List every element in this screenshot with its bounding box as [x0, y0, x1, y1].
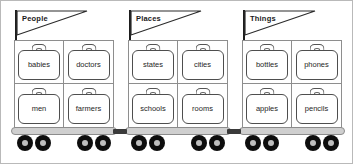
- cart-body-things: bottles phones: [242, 40, 342, 128]
- cart-cell: farmers: [64, 84, 113, 127]
- cart-coupler: [113, 129, 127, 134]
- suitcase-icon: pencils: [296, 88, 338, 124]
- suitcase-icon: doctors: [68, 44, 110, 80]
- cart-places: Places states cities: [123, 1, 235, 164]
- suitcase-body: schools: [132, 94, 174, 124]
- suitcase-label: schools: [140, 105, 165, 113]
- suitcase-body: farmers: [68, 94, 110, 124]
- luggage-carts-scene: People babies doctors: [1, 1, 353, 164]
- flag-label: People: [22, 14, 48, 23]
- cart-coupler: [227, 129, 241, 134]
- pennant-flag-places: Places: [129, 10, 203, 42]
- cart-cell: babies: [15, 41, 64, 84]
- suitcase-label: babies: [28, 61, 50, 69]
- cart-wheel-icon: [305, 135, 321, 151]
- cart-body-places: states cities: [128, 40, 228, 128]
- suitcase-icon: bottles: [246, 44, 288, 80]
- cart-wheel-icon: [323, 135, 339, 151]
- flag-label: Places: [136, 14, 161, 23]
- cart-body-people: babies doctors: [14, 40, 114, 128]
- suitcase-icon: farmers: [68, 88, 110, 124]
- suitcase-icon: states: [132, 44, 174, 80]
- cart-cell: bottles: [243, 41, 292, 84]
- suitcase-icon: schools: [132, 88, 174, 124]
- suitcase-body: bottles: [246, 50, 288, 80]
- cart-people: People babies doctors: [9, 1, 121, 164]
- pennant-flag-people: People: [15, 10, 89, 42]
- suitcase-label: rooms: [192, 105, 213, 113]
- pennant-flag-things: Things: [243, 10, 317, 42]
- suitcase-label: apples: [256, 105, 278, 113]
- suitcase-label: cities: [194, 61, 211, 69]
- cart-wheel-icon: [149, 135, 165, 151]
- cart-cell: apples: [243, 84, 292, 127]
- cart-cell: doctors: [64, 41, 113, 84]
- suitcase-body: apples: [246, 94, 288, 124]
- suitcase-label: farmers: [76, 105, 101, 113]
- flag-label: Things: [250, 14, 276, 23]
- cart-platform: [125, 127, 231, 135]
- suitcase-body: rooms: [182, 94, 224, 124]
- cart-cell: states: [129, 41, 178, 84]
- cart-wheel-icon: [35, 135, 51, 151]
- suitcase-icon: phones: [296, 44, 338, 80]
- cart-wheel-icon: [191, 135, 207, 151]
- suitcase-label: phones: [304, 61, 329, 69]
- suitcase-body: babies: [18, 50, 60, 80]
- cart-wheel-icon: [17, 135, 33, 151]
- suitcase-label: bottles: [256, 61, 278, 69]
- suitcase-label: pencils: [305, 105, 328, 113]
- cart-wheel-icon: [263, 135, 279, 151]
- cart-wheel-icon: [209, 135, 225, 151]
- cart-cell: men: [15, 84, 64, 127]
- cart-cell: pencils: [292, 84, 341, 127]
- suitcase-label: doctors: [76, 61, 101, 69]
- cart-cell: rooms: [178, 84, 227, 127]
- cart-wheel-icon: [245, 135, 261, 151]
- suitcase-body: cities: [182, 50, 224, 80]
- suitcase-icon: rooms: [182, 88, 224, 124]
- cart-wheel-icon: [95, 135, 111, 151]
- suitcase-body: phones: [296, 50, 338, 80]
- suitcase-body: pencils: [296, 94, 338, 124]
- suitcase-icon: men: [18, 88, 60, 124]
- cart-cell: cities: [178, 41, 227, 84]
- cart-wheel-icon: [77, 135, 93, 151]
- cart-platform: [239, 127, 345, 135]
- suitcase-body: doctors: [68, 50, 110, 80]
- suitcase-label: men: [32, 105, 47, 113]
- cart-platform: [11, 127, 117, 135]
- suitcase-body: men: [18, 94, 60, 124]
- cart-cell: phones: [292, 41, 341, 84]
- cart-cell: schools: [129, 84, 178, 127]
- suitcase-icon: babies: [18, 44, 60, 80]
- cart-things: Things bottles phones: [237, 1, 349, 164]
- cart-wheel-icon: [131, 135, 147, 151]
- suitcase-body: states: [132, 50, 174, 80]
- suitcase-icon: cities: [182, 44, 224, 80]
- suitcase-label: states: [143, 61, 163, 69]
- suitcase-icon: apples: [246, 88, 288, 124]
- diagram-canvas: People babies doctors: [0, 0, 353, 164]
